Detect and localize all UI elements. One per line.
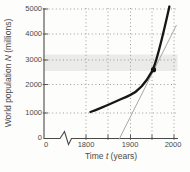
x-tick-2000: 2000 bbox=[158, 140, 188, 150]
y-axis-title: World population N (millions) bbox=[3, 19, 13, 128]
y-tick-4000: 4000 bbox=[14, 29, 42, 39]
y-axis-title-pre: World population bbox=[3, 61, 13, 127]
y-axis-title-post: (millions) bbox=[3, 19, 13, 55]
x-tick-0: 0 bbox=[31, 140, 61, 150]
x-axis-title: Time t (years) bbox=[44, 151, 178, 162]
x-tick-1800: 1800 bbox=[71, 140, 101, 150]
x-tick-1900: 1900 bbox=[115, 140, 145, 150]
y-tick-1000: 1000 bbox=[14, 108, 42, 118]
y-tick-3000: 3000 bbox=[14, 55, 42, 65]
x-axis-title-pre: Time bbox=[85, 151, 106, 162]
population-growth-chart: 5000 4000 3000 2000 1000 0 0 1800 1900 2… bbox=[0, 0, 190, 172]
y-tick-5000: 5000 bbox=[14, 4, 42, 14]
y-tick-2000: 2000 bbox=[14, 80, 42, 90]
tangent-point-dot bbox=[151, 67, 156, 72]
x-axis-title-post: (years) bbox=[108, 151, 137, 162]
tangent-line bbox=[119, 25, 177, 140]
y-axis-title-var: N bbox=[3, 55, 13, 61]
